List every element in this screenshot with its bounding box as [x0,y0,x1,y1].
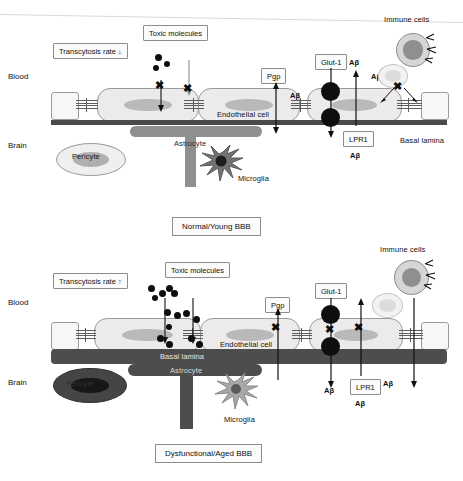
panel-normal-young-bbb: Blood Brain Transcytosis rate ↓ Toxic mo… [0,0,463,240]
side-label-blood: Blood [8,72,28,81]
endothelial-cap-right [421,322,449,350]
endothelial-cap-left [51,322,79,350]
label-microglia: Microglia [238,174,269,183]
blocked-lpr1-x: ✖ [354,322,363,333]
immune-receptor-icon [424,32,440,66]
side-label-brain: Brain [8,141,27,150]
tight-junction-2 [184,100,204,110]
label-abeta-lpr1-bottom: Aβ [350,151,360,160]
label-abeta-lpr1: Aβ [355,399,365,408]
tight-junction-1 [76,100,98,110]
microglia-cell-icon [212,370,266,414]
lpr1-efflux-arrow [350,70,362,126]
astrocyte-process-reactive [180,373,193,429]
blocked-pgp-x: ✖ [271,322,280,333]
blocked-glut1-x: ✖ [325,324,334,335]
label-abeta-pgp: Aβ [290,91,300,100]
endothelial-cap-right [421,92,449,120]
panel-caption-dysfunctional-aged: Dysfunctional/Aged BBB [155,444,262,463]
transcytosis-arrow-open-2 [188,298,198,344]
pgp-efflux-arrow [270,82,282,134]
toxic-molecule-dot [164,61,170,67]
label-basal-lamina: Basal lamina [400,136,444,145]
box-transcytosis-rate: Transcytosis rate ↓ [53,43,128,59]
label-basal-lamina: Basal lamina [160,352,204,361]
toxic-molecule-dot [152,295,158,301]
toxic-molecule-dot [148,285,155,292]
immune-cell-nucleus [379,299,395,312]
tight-junction-3 [292,330,312,340]
label-endothelial-cell: Endothelial cell [220,340,272,349]
immune-infiltration-arrow [408,298,420,388]
label-microglia: Microglia [224,415,255,424]
side-label-blood: Blood [8,298,28,307]
label-immune-cells: Immune cells [384,15,429,24]
box-toxic-molecules: Toxic molecules [165,262,230,278]
glut1-transporter [321,108,340,127]
label-abeta-lpr1-top: Aβ [349,58,359,67]
blocked-transport-x: ✖ [155,80,164,91]
immune-cell-resting [372,293,403,318]
glut1-transporter [321,82,340,101]
astrocyte-endfoot [130,126,262,137]
box-lpr1: LPR1 [350,379,381,395]
glut1-transporter [321,337,340,356]
label-endothelial-cell: Endothelial cell [217,110,269,119]
toxic-molecule-dot [171,290,178,297]
blocked-transport-x: ✖ [183,83,192,94]
pgp-efflux-arrow [272,308,284,380]
toxic-molecule-dot [153,65,159,71]
box-toxic-molecules: Toxic molecules [143,25,208,41]
panel-caption-normal-young: Normal/Young BBB [172,217,261,236]
lpr1-efflux-arrow [355,298,367,376]
toxic-molecule-dot [159,290,166,297]
side-label-brain: Brain [8,378,27,387]
endothelial-cap-left [51,92,79,120]
label-abeta-right: Aβ [383,379,393,388]
box-glut1: Glut-1 [315,283,347,299]
transcytosis-arrow-open-1 [160,298,170,344]
box-transcytosis-rate: Transcytosis rate ↑ [53,273,128,289]
label-immune-cells: Immune cells [380,245,425,254]
basal-lamina-top [51,120,447,125]
glut1-transport-arrow [325,68,337,138]
immune-cell-nucleus [402,268,422,288]
glut1-transporter [321,305,340,324]
box-lpr1: LPR1 [343,131,374,147]
toxic-molecule-dot [174,312,181,319]
toxic-molecule-dot [155,54,162,61]
label-astrocyte: Astrocyte [170,366,202,375]
panel-dysfunctional-aged-bbb: Blood Brain Transcytosis rate ↑ Toxic mo… [0,240,463,481]
tight-junction-3 [291,100,311,110]
immune-cell-nucleus [403,40,422,59]
label-pericyte: Pericyte [72,152,100,161]
label-abeta-glut1: Aβ [324,386,334,395]
immune-receptor-icon [423,258,439,292]
tight-junction-1 [76,330,96,340]
immune-block-arrows [378,78,422,106]
label-pericyte: Pericyte [66,379,94,388]
basal-lamina-thickened [51,349,447,364]
bbb-figure: Blood Brain Transcytosis rate ↓ Toxic mo… [0,0,463,481]
